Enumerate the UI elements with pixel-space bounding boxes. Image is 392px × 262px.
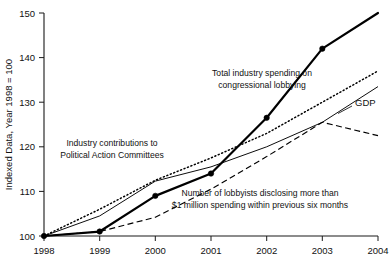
x-tick-label-2004: 2004 [367,245,388,256]
data-point-marker [208,171,213,176]
annotation-gdp-leader [338,106,352,114]
data-point-marker [97,229,102,234]
data-point-marker [320,46,325,51]
y-tick-label-110: 110 [20,186,35,197]
y-tick-label-100: 100 [19,231,35,242]
annotation-pac-line1: Industry contributions to [66,138,157,148]
x-tick-label-1998: 1998 [33,245,54,256]
x-tick-label-2002: 2002 [256,245,277,256]
y-tick-label-140: 140 [19,52,35,63]
annotation-lobbyists-line2: $1 million spending within previous six … [172,200,348,210]
chart-figure: 100 110 120 130 140 150 1998 1999 2000 2… [0,0,392,262]
x-tick-label-2000: 2000 [145,245,166,256]
y-tick-label-150: 150 [19,8,35,19]
annotation-gdp-label: GDP [355,97,376,108]
data-point-marker [264,115,269,120]
y-axis-title: Indexed Data, Year 1998 = 100 [3,59,14,190]
annotation-lobbyists-line1: Number of lobbyists disclosing more than [181,188,338,198]
y-tick-label-130: 130 [19,97,35,108]
series-gdp-line [44,87,378,236]
data-point-marker [41,233,46,238]
x-tick-label-2003: 2003 [312,245,333,256]
annotation-lobbying-line1: Total industry spending on [212,68,312,78]
y-axis-ticks [39,13,44,236]
chart-svg: 100 110 120 130 140 150 1998 1999 2000 2… [0,0,392,262]
y-tick-label-120: 120 [19,141,35,152]
x-axis-ticks [44,236,378,241]
annotation-lobbying-line2: congressional lobbying [218,80,306,90]
x-tick-label-1999: 1999 [89,245,110,256]
data-point-marker [153,193,158,198]
x-tick-label-2001: 2001 [200,245,221,256]
annotation-pac-line2: Political Action Committees [60,150,164,160]
